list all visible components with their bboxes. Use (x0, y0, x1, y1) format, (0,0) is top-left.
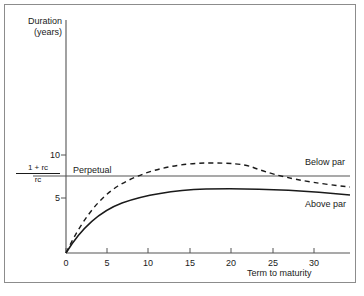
perpetual-duration-fraction: 1 + rc rc (16, 163, 60, 184)
y-axis-title-line2: (years) (34, 27, 62, 37)
fraction-denominator: rc (16, 174, 60, 184)
y-axis-title: Duration (years) (8, 16, 62, 38)
y-tick-label-5: 5 (38, 193, 60, 204)
y-tick-label-10: 10 (38, 150, 60, 161)
figure-border (4, 4, 356, 283)
below-par-curve-label: Below par (305, 157, 345, 168)
x-axis-title: Term to maturity (247, 268, 312, 279)
above-par-curve-label: Above par (305, 199, 346, 210)
x-tick-label-5: 5 (97, 258, 117, 269)
x-tick-label-0: 0 (56, 258, 76, 269)
x-tick-label-20: 20 (221, 258, 241, 269)
fraction-numerator: 1 + rc (16, 163, 60, 174)
y-axis-title-line1: Duration (28, 16, 62, 26)
perpetual-line-label: Perpetual (73, 165, 112, 176)
x-tick-label-10: 10 (138, 258, 158, 269)
x-tick-label-15: 15 (180, 258, 200, 269)
chart-figure: Duration (years) 10 5 1 + rc rc Perpetua… (0, 0, 364, 296)
